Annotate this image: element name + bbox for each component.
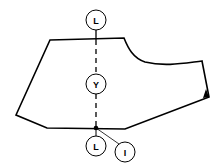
label-bottom-right-text: I: [124, 148, 127, 158]
label-bottom-left-text: L: [93, 142, 99, 152]
label-top-text: L: [93, 16, 99, 26]
label-middle-text: Y: [93, 80, 99, 90]
label-circle-bottom-right: I: [115, 142, 135, 162]
label-circle-middle: Y: [86, 74, 106, 94]
pattern-diagram: L Y L I: [0, 0, 224, 167]
label-circle-bottom-left: L: [86, 136, 106, 156]
pattern-outline: [16, 38, 209, 129]
label-circle-top: L: [86, 10, 106, 30]
